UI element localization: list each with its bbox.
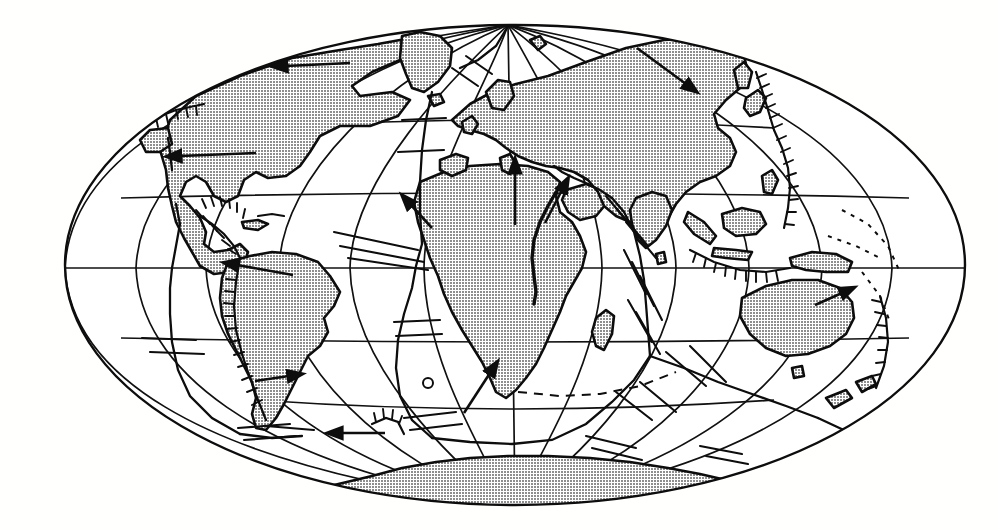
map-canvas — [0, 0, 997, 530]
land-indonesia — [722, 208, 766, 236]
world-tectonic-map: World map of tectonic plates and plate-m… — [0, 0, 997, 530]
land-tasmania — [792, 366, 804, 378]
land-sri-lanka — [656, 252, 666, 264]
